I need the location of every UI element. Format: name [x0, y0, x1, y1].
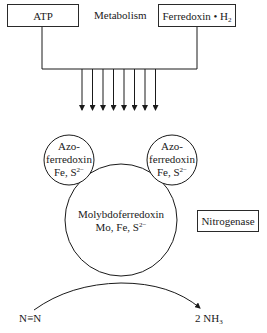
molybdoferredoxin-text: Molybdoferredoxin Mo, Fe, S2−	[71, 208, 171, 234]
product-label: 2 NH3	[195, 312, 223, 324]
atp-label: ATP	[33, 10, 53, 22]
azoferredoxin-left-text: Azo- ferredoxin Fe, S2−	[44, 140, 94, 179]
substrate-label: N≡N	[19, 312, 41, 324]
electron-flow-arrows	[82, 69, 156, 110]
diagram-graphics	[0, 0, 267, 333]
atp-box: ATP	[7, 4, 79, 27]
ferredoxin-box: Ferredoxin • H2	[158, 4, 236, 27]
metabolism-label: Metabolism	[94, 9, 147, 21]
ferredoxin-label: Ferredoxin • H2	[162, 10, 231, 22]
nitrogenase-label: Nitrogenase	[201, 215, 254, 227]
reaction-arc	[34, 283, 200, 310]
nitrogenase-box: Nitrogenase	[197, 210, 259, 232]
feed-connector	[42, 27, 197, 69]
azoferredoxin-right-text: Azo- ferredoxin Fe, S2−	[147, 140, 197, 179]
